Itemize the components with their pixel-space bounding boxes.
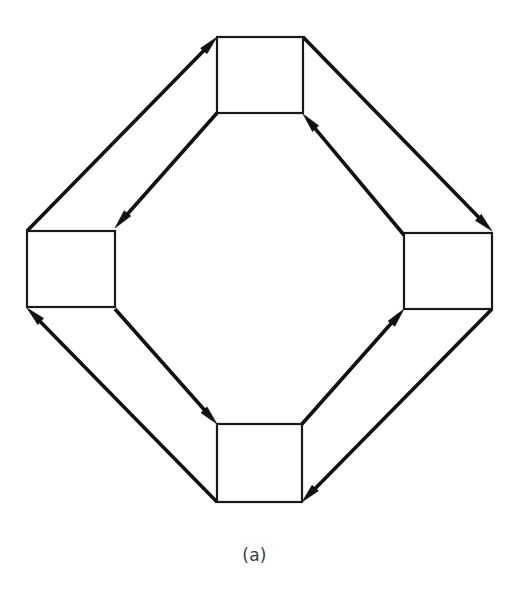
node-group	[27, 37, 492, 502]
link-bottom-to-right-line	[302, 318, 396, 424]
node-box-bottom[interactable]	[217, 424, 302, 502]
figure-caption: (a)	[0, 545, 509, 565]
link-bottom-to-right[interactable]	[302, 309, 404, 424]
link-right-to-bottom[interactable]	[302, 309, 492, 502]
link-left-to-bottom-line	[115, 309, 209, 415]
link-left-to-top-line	[27, 45, 209, 231]
figure-container: (a)	[0, 0, 509, 612]
link-right-to-bottom-line	[310, 309, 492, 494]
link-left-to-bottom[interactable]	[115, 309, 217, 424]
link-left-to-top[interactable]	[27, 37, 217, 231]
link-top-to-left-line	[123, 113, 217, 219]
node-box-left[interactable]	[27, 231, 115, 307]
link-bottom-to-left[interactable]	[27, 308, 217, 502]
link-top-to-right-line	[303, 37, 484, 223]
link-bottom-to-left-line	[35, 316, 217, 502]
link-right-to-top-line	[311, 123, 404, 235]
node-box-right[interactable]	[404, 233, 492, 309]
link-top-to-right[interactable]	[303, 37, 492, 231]
link-right-to-top[interactable]	[303, 114, 404, 235]
node-box-top[interactable]	[217, 37, 303, 113]
link-top-to-left[interactable]	[115, 113, 217, 228]
ring-topology-diagram	[0, 0, 509, 612]
